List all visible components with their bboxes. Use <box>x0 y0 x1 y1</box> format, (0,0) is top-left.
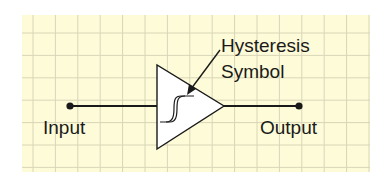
annotation-label-line1: Hysteresis <box>221 35 310 56</box>
output-label: Output <box>260 117 318 138</box>
input-terminal-dot <box>66 102 73 109</box>
output-terminal-dot <box>295 102 302 109</box>
input-label: Input <box>43 117 86 138</box>
hysteresis-diagram: Hysteresis Symbol Input Output <box>0 0 389 186</box>
annotation-label-line2: Symbol <box>221 61 284 82</box>
